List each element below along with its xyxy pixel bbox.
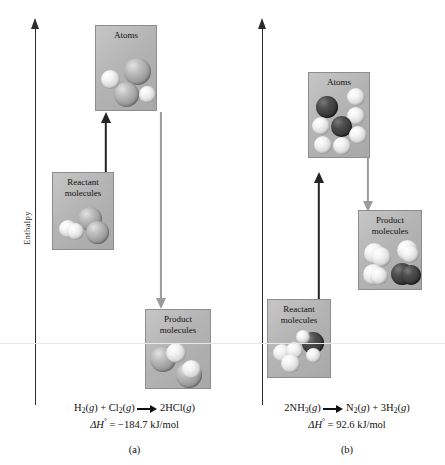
bond-forming-arrow-b <box>357 157 379 212</box>
nitrogen-atom-sphere <box>316 96 338 118</box>
hydrogen-molecule-sphere <box>401 245 419 263</box>
reactant-molecules-box-a: Reactant molecules <box>52 172 114 250</box>
ammonia-hydrogen-sphere <box>281 354 300 373</box>
product-box-label-b: Product molecules <box>359 215 421 237</box>
hydrogen-atom-sphere <box>314 136 332 154</box>
enthalpy-change-a: ΔH° = −184.7 kJ/mol <box>42 417 227 433</box>
product-molecules-box-a: Product molecules <box>145 309 211 389</box>
bond-forming-arrow-a <box>150 112 172 309</box>
chlorine-atom-sphere <box>124 58 151 85</box>
reactant-box-label-a: Reactant molecules <box>53 177 113 199</box>
reactant-molecules-box-b: Reactant molecules <box>267 299 331 378</box>
axis-line <box>35 28 37 405</box>
nitrogen-molecule-sphere <box>401 265 421 285</box>
hydrogen-atom-sphere <box>312 117 330 135</box>
panel-caption-b: (b) <box>252 442 442 457</box>
background-rule <box>0 343 445 344</box>
hydrogen-atom-sphere <box>139 86 156 103</box>
reaction-arrow-icon <box>323 404 343 413</box>
atoms-box-b: Atoms <box>308 72 370 158</box>
equation-block-a: H2(g) + Cl2(g) 2HCl(g) ΔH° = −184.7 kJ/m… <box>42 400 227 457</box>
hydrogen-atom-sphere <box>347 88 365 106</box>
enthalpy-change-b: ΔH° = 92.6 kJ/mol <box>252 417 442 433</box>
reactant-box-label-b: Reactant molecules <box>268 304 330 326</box>
reaction-equation-a: H2(g) + Cl2(g) 2HCl(g) <box>42 400 227 416</box>
hydrogen-atom-sphere <box>349 126 367 144</box>
arrowhead-down-icon <box>156 298 166 309</box>
reaction-equation-b: 2NH3(g) N2(g) + 3H2(g) <box>252 400 442 416</box>
bond-breaking-arrow-a <box>95 112 117 175</box>
equation-block-b: 2NH3(g) N2(g) + 3H2(g) ΔH° = 92.6 kJ/mol… <box>252 400 442 457</box>
figure-canvas: Enthalpy Atoms Reactant molecules Produc… <box>0 0 445 465</box>
arrow-shaft <box>105 122 107 175</box>
arrow-shaft <box>318 182 320 300</box>
bond-breaking-arrow-b <box>308 172 330 300</box>
ammonia-hydrogen-sphere <box>306 348 321 363</box>
arrow-shaft <box>367 157 369 202</box>
atoms-box-a: Atoms <box>95 25 157 111</box>
panel-caption-a: (a) <box>42 442 227 457</box>
product-box-label-a: Product molecules <box>146 314 210 336</box>
arrow-shaft <box>160 112 162 299</box>
axis-line <box>262 28 264 405</box>
hydrogen-molecule-sphere <box>370 267 388 285</box>
chlorine-molecule-sphere <box>86 221 109 244</box>
chlorine-atom-sphere <box>114 82 139 107</box>
reaction-arrow-icon <box>137 404 157 413</box>
atoms-box-label-b: Atoms <box>309 77 369 88</box>
hcl-hydrogen-sphere <box>166 343 186 363</box>
atoms-box-label-a: Atoms <box>96 30 156 41</box>
hydrogen-atom-sphere <box>333 137 351 155</box>
hydrogen-molecule-sphere <box>67 223 84 240</box>
enthalpy-axis-label: Enthalpy <box>22 211 32 245</box>
product-molecules-box-b: Product molecules <box>358 210 422 290</box>
hcl-hydrogen-sphere <box>182 360 201 379</box>
